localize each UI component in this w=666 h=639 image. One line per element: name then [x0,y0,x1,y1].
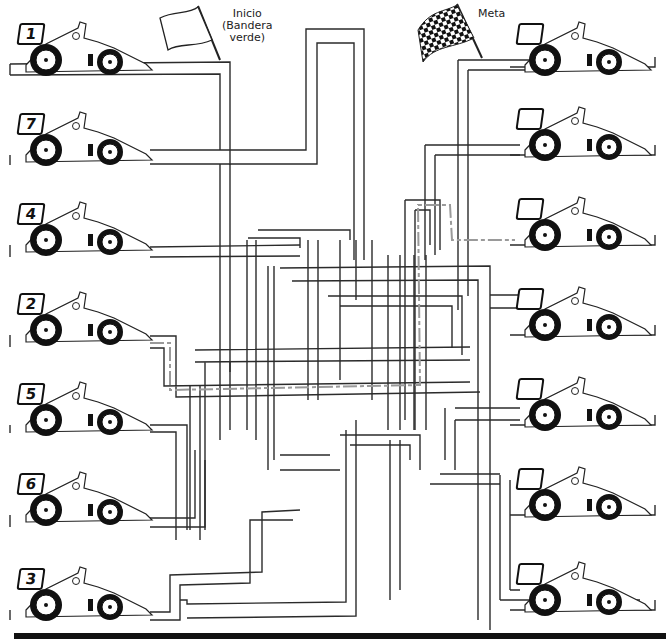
left-car-5: 5 [6,380,166,442]
finish-flag-icon [418,4,482,62]
right-car-2 [505,105,665,167]
left-car-4: 2 [6,290,166,352]
right-car-3 [505,195,665,257]
bottom-divider [14,633,666,639]
right-car-5 [505,375,665,437]
left-car-1: 1 [6,20,166,82]
right-car-7 [505,560,665,622]
car-number-sign: 2 [16,293,45,315]
left-car-2: 7 [6,110,166,172]
left-car-3: 4 [6,200,166,262]
car-number-sign: 4 [16,203,45,225]
right-car-1 [505,20,665,82]
start-flag-icon [160,6,220,60]
car-number-sign: 7 [16,113,45,135]
start-label: Inicio (Bandera verde) [222,8,273,44]
car-number-sign[interactable] [515,468,544,490]
car-number-sign: 5 [16,383,45,405]
right-car-6 [505,465,665,527]
car-number-sign[interactable] [515,23,544,45]
right-car-4 [505,285,665,347]
car-number-sign: 3 [16,568,45,590]
left-car-6: 6 [6,470,166,532]
car-number-sign[interactable] [515,198,544,220]
car-number-sign[interactable] [515,378,544,400]
car-number-sign[interactable] [515,563,544,585]
car-number-sign: 1 [16,23,45,45]
finish-label: Meta [478,8,505,20]
car-number-sign[interactable] [515,288,544,310]
left-car-7: 3 [6,565,166,627]
car-number-sign[interactable] [515,108,544,130]
car-number-sign: 6 [16,473,45,495]
